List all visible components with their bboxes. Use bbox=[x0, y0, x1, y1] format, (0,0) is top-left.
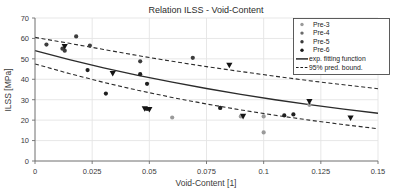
y-tick-label: 40 bbox=[21, 75, 29, 84]
data-point bbox=[145, 82, 149, 86]
y-tick-label: 20 bbox=[21, 116, 29, 125]
data-point bbox=[282, 113, 286, 117]
legend-marker-pre-4 bbox=[300, 31, 303, 34]
x-axis-label: Void-Content [1] bbox=[176, 178, 237, 188]
chart-legend[interactable]: Pre-3Pre-4Pre-5Pre-6exp. fitting functio… bbox=[294, 19, 390, 75]
x-tick-label: 0.1 bbox=[258, 167, 268, 176]
y-tick-label: 30 bbox=[21, 96, 29, 105]
chart-figure: 00.0250.050.0750.10.1250.15 010203040506… bbox=[0, 0, 394, 191]
x-tick-label: 0.15 bbox=[371, 167, 386, 176]
legend-label: exp. fitting function bbox=[309, 55, 366, 63]
y-axis-tick-labels: 010203040506070 bbox=[21, 14, 29, 166]
data-point bbox=[44, 42, 48, 46]
y-tick-label: 70 bbox=[21, 14, 29, 23]
data-point bbox=[218, 106, 222, 110]
data-point bbox=[191, 56, 195, 60]
data-point bbox=[138, 59, 142, 63]
chart-plot-svg: 00.0250.050.0750.10.1250.15 010203040506… bbox=[0, 0, 394, 191]
y-axis-label: ILSS [MPa] bbox=[3, 69, 13, 112]
legend-label: 95% pred. bound. bbox=[309, 64, 363, 72]
x-tick-label: 0.05 bbox=[142, 167, 157, 176]
data-point bbox=[262, 130, 266, 134]
legend-marker-pre-3 bbox=[300, 23, 303, 26]
data-point bbox=[262, 114, 266, 118]
legend-label: Pre-4 bbox=[313, 29, 330, 36]
legend-label: Pre-6 bbox=[313, 46, 330, 53]
legend-marker-pre-5 bbox=[300, 40, 303, 43]
data-point bbox=[104, 91, 108, 95]
x-axis-tick-labels: 00.0250.050.0750.10.1250.15 bbox=[33, 167, 385, 176]
data-point bbox=[138, 72, 142, 76]
y-tick-label: 60 bbox=[21, 34, 29, 43]
y-tick-label: 0 bbox=[25, 157, 29, 166]
x-tick-label: 0.025 bbox=[83, 167, 102, 176]
data-point bbox=[85, 68, 89, 72]
legend-label: Pre-5 bbox=[313, 38, 330, 45]
data-point bbox=[74, 34, 78, 38]
data-point bbox=[170, 115, 174, 119]
chart-title: Relation ILSS - Void-Content bbox=[148, 5, 264, 15]
y-tick-label: 50 bbox=[21, 55, 29, 64]
x-tick-label: 0.125 bbox=[311, 167, 330, 176]
x-tick-label: 0.075 bbox=[197, 167, 216, 176]
data-point bbox=[291, 112, 295, 116]
y-tick-label: 10 bbox=[21, 136, 29, 145]
data-point bbox=[88, 43, 92, 47]
legend-label: Pre-3 bbox=[313, 21, 330, 28]
legend-marker-pre-6 bbox=[300, 49, 303, 52]
x-tick-label: 0 bbox=[33, 167, 37, 176]
